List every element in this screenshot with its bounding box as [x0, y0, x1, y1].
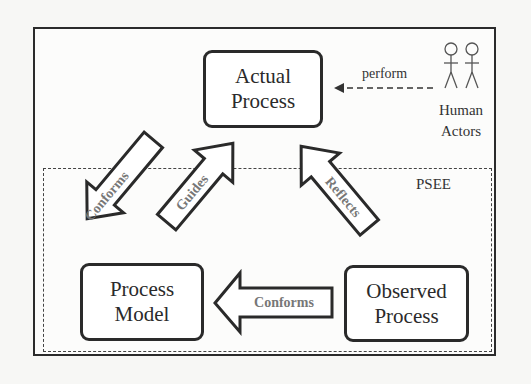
human-actors-label: Human Actors [438, 100, 484, 142]
conforms-arrow-to-observed: Conforms [215, 273, 332, 332]
conforms-arrow-to-model: Conforms [69, 124, 172, 234]
perform-arrow [334, 83, 433, 93]
perform-label: perform [362, 66, 407, 82]
reflects-arrow: Reflects [282, 130, 388, 243]
diagram-connectors: Conforms Guides Reflects Conforms [0, 0, 531, 384]
guides-arrow: Guides [147, 127, 252, 238]
human-actors-line2: Actors [438, 121, 484, 142]
conforms-label-2: Conforms [254, 295, 314, 310]
stick-figure-icon [444, 43, 458, 88]
human-actors-line1: Human [438, 100, 484, 121]
stick-figure-icon [465, 43, 479, 88]
